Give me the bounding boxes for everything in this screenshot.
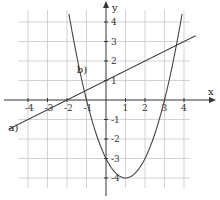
coordinate-plot: x y -4-3-2-11234-4-3-2-11234 a)b) — [0, 0, 220, 200]
y-tick-label: 3 — [111, 37, 117, 47]
y-axis-label: y — [111, 2, 118, 13]
y-tick-label: 2 — [111, 56, 117, 66]
x-tick-label: 1 — [123, 103, 129, 113]
y-tick-label: -3 — [111, 154, 120, 164]
x-axis-label: x — [208, 86, 214, 97]
x-tick-label: -2 — [64, 103, 73, 113]
y-tick-label: -2 — [111, 134, 120, 144]
plot-series — [9, 14, 196, 178]
x-tick-label: 2 — [142, 103, 148, 113]
y-tick-label: -4 — [111, 173, 120, 183]
x-tick-label: -4 — [25, 103, 34, 113]
x-tick-label: 4 — [181, 103, 187, 113]
y-axis-arrow-icon — [103, 1, 109, 8]
y-tick-label: -1 — [111, 115, 120, 125]
y-tick-label: 4 — [111, 17, 117, 27]
curve-label: a) — [9, 122, 19, 133]
series-line-a — [9, 36, 196, 130]
x-axis-arrow-icon — [209, 97, 216, 103]
curve-label: b) — [77, 64, 87, 75]
